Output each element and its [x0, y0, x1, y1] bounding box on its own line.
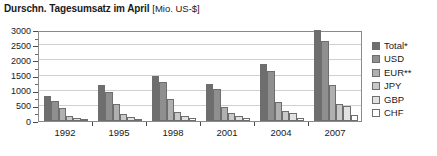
bar — [213, 89, 220, 121]
x-tick-mark — [308, 122, 309, 126]
legend-swatch-icon — [372, 42, 380, 50]
x-tick-label: 2007 — [324, 128, 345, 138]
bar-group — [39, 32, 93, 121]
bar — [221, 107, 228, 121]
bar — [297, 118, 304, 121]
legend-label: GBP — [384, 95, 404, 105]
bar — [167, 99, 174, 121]
legend-label: JPY — [384, 81, 401, 91]
y-tick-label: 1500 — [11, 72, 31, 81]
x-tick-label: 2004 — [270, 128, 291, 138]
bar — [59, 108, 66, 121]
legend-item[interactable]: USD — [372, 53, 435, 67]
bar — [113, 104, 120, 121]
bar — [152, 76, 159, 122]
legend-swatch-icon — [372, 55, 380, 63]
legend-label: EUR** — [384, 68, 411, 78]
bar — [267, 71, 274, 121]
bar — [73, 118, 80, 121]
legend-item[interactable]: GBP — [372, 93, 435, 107]
bar — [260, 64, 267, 121]
legend-swatch-icon — [372, 82, 380, 90]
legend-item[interactable]: EUR** — [372, 66, 435, 80]
y-tick-label: 500 — [16, 102, 31, 111]
legend: Total*USDEUR**JPYGBPCHF — [372, 39, 435, 120]
bar — [275, 102, 282, 121]
legend-item[interactable]: CHF — [372, 107, 435, 121]
legend-label: CHF — [384, 108, 404, 118]
chart-title-unit: [Mio. US-$] — [152, 3, 200, 14]
legend-swatch-icon — [372, 96, 380, 104]
y-axis: 050010001500200025003000 — [0, 0, 38, 156]
bar — [105, 92, 112, 121]
bar — [206, 84, 213, 121]
bar — [120, 114, 127, 121]
bar — [98, 85, 105, 121]
bar — [314, 30, 321, 121]
x-tick-label: 1992 — [54, 128, 75, 138]
bar — [228, 113, 235, 121]
bar-group — [147, 32, 201, 121]
bar — [135, 119, 142, 121]
plot-area — [38, 31, 362, 122]
bar — [329, 85, 336, 121]
legend-label: USD — [384, 54, 404, 64]
bar — [44, 96, 51, 121]
bar — [235, 116, 242, 121]
y-tick-label: 2500 — [11, 42, 31, 51]
bar — [127, 117, 134, 121]
x-tick-mark — [254, 122, 255, 126]
bar — [243, 118, 250, 121]
bar — [66, 116, 73, 121]
bar — [351, 115, 358, 121]
bar-group — [309, 32, 363, 121]
bar — [282, 111, 289, 121]
bar — [289, 113, 296, 121]
x-tick-mark — [92, 122, 93, 126]
bar — [51, 101, 58, 121]
bar — [174, 112, 181, 121]
legend-swatch-icon — [372, 109, 380, 117]
x-tick-label: 2001 — [216, 128, 237, 138]
bar — [343, 106, 350, 121]
legend-item[interactable]: JPY — [372, 80, 435, 94]
x-tick-mark — [146, 122, 147, 126]
bar — [159, 82, 166, 121]
legend-item[interactable]: Total* — [372, 39, 435, 53]
bar — [81, 119, 88, 121]
legend-label: Total* — [384, 41, 408, 51]
y-tick-label: 1000 — [11, 87, 31, 96]
bar — [321, 41, 328, 121]
x-tick-label: 1995 — [108, 128, 129, 138]
legend-swatch-icon — [372, 69, 380, 77]
bar — [181, 116, 188, 121]
bar-group — [93, 32, 147, 121]
x-axis: 199219951998200120042007 — [38, 122, 362, 142]
y-tick-label: 3000 — [11, 27, 31, 36]
y-tick-label: 2000 — [11, 57, 31, 66]
x-tick-mark — [200, 122, 201, 126]
bar — [336, 104, 343, 121]
bar-group — [201, 32, 255, 121]
y-tick-label: 0 — [26, 118, 31, 127]
bar — [189, 118, 196, 121]
bar-group — [255, 32, 309, 121]
x-tick-label: 1998 — [162, 128, 183, 138]
